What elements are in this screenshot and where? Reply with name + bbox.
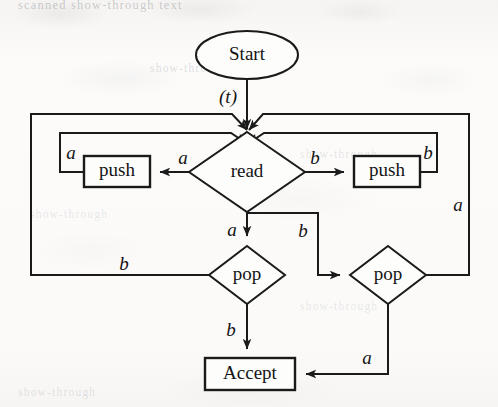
- edge-label-push-left-loop: a: [66, 142, 76, 163]
- edge-label-read-to-push-right: b: [310, 147, 320, 168]
- flowchart-diagram: Start read push push pop pop Accept (t) …: [0, 0, 498, 407]
- node-accept-label: Accept: [223, 362, 278, 383]
- edge-label-read-to-pop-left: a: [227, 219, 237, 240]
- edge-label-push-right-loop: b: [423, 142, 433, 163]
- edge-label-read-to-push-left: a: [178, 147, 188, 168]
- figure-canvas: scanned show-through text show-through s…: [0, 0, 498, 407]
- edge-label-start-to-read: (t): [219, 86, 237, 108]
- edge-label-pop-left-to-read: b: [119, 253, 129, 274]
- edge-label-pop-right-to-read: a: [453, 194, 463, 215]
- node-pop-right-label: pop: [374, 263, 403, 284]
- edge-label-read-to-pop-right: b: [298, 220, 308, 241]
- node-push-left-label: push: [99, 159, 135, 180]
- node-start-label: Start: [229, 43, 266, 64]
- edge-pop-left-to-read: [31, 114, 247, 275]
- edge-pop-right-to-accept: [306, 304, 388, 374]
- edge-label-pop-right-to-accept: a: [362, 347, 372, 368]
- edge-label-pop-left-to-accept: b: [226, 319, 236, 340]
- node-pop-left-label: pop: [233, 263, 262, 284]
- node-read-label: read: [231, 160, 264, 181]
- node-push-right-label: push: [369, 159, 405, 180]
